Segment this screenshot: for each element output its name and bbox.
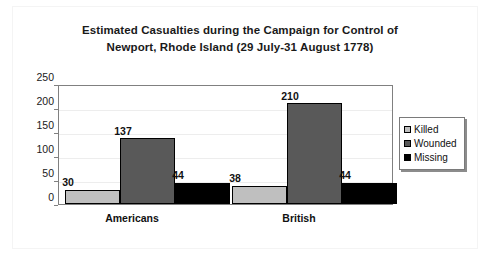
bar-value-british-wounded: 210 xyxy=(259,91,321,102)
y-tick-label-0: 0 xyxy=(18,192,54,203)
legend-swatch-missing-icon xyxy=(404,154,411,161)
bar-chart: Estimated Casualties during the Campaign… xyxy=(0,0,490,259)
chart-title: Estimated Casualties during the Campaign… xyxy=(40,22,440,56)
bar-group-british xyxy=(226,86,393,204)
bar-americans-missing[interactable] xyxy=(175,183,230,204)
legend-label-wounded: Wounded xyxy=(414,138,457,149)
legend-item-killed[interactable]: Killed xyxy=(404,122,461,136)
bar-british-wounded[interactable] xyxy=(287,103,342,204)
legend-label-killed: Killed xyxy=(414,124,438,135)
chart-legend: Killed Wounded Missing xyxy=(399,117,465,170)
legend-swatch-killed-icon xyxy=(404,126,411,133)
legend-label-missing: Missing xyxy=(414,152,448,163)
y-axis-tick-0 xyxy=(54,205,58,206)
y-tick-label-250: 250 xyxy=(18,72,54,83)
x-axis-label-americans: Americans xyxy=(89,212,175,224)
y-tick-label-100: 100 xyxy=(18,144,54,155)
x-axis-label-british: British xyxy=(256,212,342,224)
bar-value-british-killed: 38 xyxy=(204,173,266,184)
legend-item-wounded[interactable]: Wounded xyxy=(404,136,461,150)
legend-item-missing[interactable]: Missing xyxy=(404,150,461,164)
legend-swatch-wounded-icon xyxy=(404,140,411,147)
bar-value-british-missing: 44 xyxy=(314,170,376,181)
bar-value-americans-missing: 44 xyxy=(147,170,209,181)
bar-british-killed[interactable] xyxy=(232,186,287,204)
y-axis-labels: 0 50 100 150 200 250 xyxy=(18,78,54,212)
y-tick-label-150: 150 xyxy=(18,120,54,131)
plot-area xyxy=(58,85,393,205)
bar-british-missing[interactable] xyxy=(342,183,397,204)
y-tick-label-200: 200 xyxy=(18,96,54,107)
bar-value-americans-wounded: 137 xyxy=(92,126,154,137)
plot-inner xyxy=(59,86,392,204)
bar-value-americans-killed: 30 xyxy=(37,177,99,188)
chart-title-line-2: Newport, Rhode Island (29 July-31 August… xyxy=(40,39,440,56)
chart-title-line-1: Estimated Casualties during the Campaign… xyxy=(82,24,398,36)
bar-americans-killed[interactable] xyxy=(65,190,120,204)
